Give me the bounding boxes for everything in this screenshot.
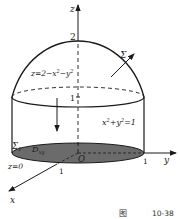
- plane-equation: z=0: [7, 162, 23, 171]
- diagram-canvas: z 2 1 z=2−x2−y2 Σ Σ1 x2+y2=1 Dxy O 1 y z…: [0, 0, 180, 219]
- z-tick-2-label: 2: [70, 32, 76, 42]
- z-axis-label: z: [69, 4, 75, 14]
- x-tick-1-label: 1: [59, 167, 64, 176]
- sigma-label: Σ: [119, 50, 127, 60]
- figure-caption-prefix: 图: [119, 209, 127, 218]
- cylinder-equation: x2+y2=1: [102, 117, 136, 127]
- x-axis-label: x: [10, 195, 15, 205]
- origin-label: O: [78, 154, 85, 164]
- y-tick-1-label: 1: [143, 157, 148, 166]
- y-axis-label: y: [163, 155, 170, 165]
- figure-caption-number: 10-38: [152, 209, 174, 218]
- paraboloid-equation: z=2−x2−y2: [30, 68, 73, 78]
- z-tick-1-label: 1: [70, 94, 75, 103]
- sigma1-label: Σ1: [11, 141, 22, 152]
